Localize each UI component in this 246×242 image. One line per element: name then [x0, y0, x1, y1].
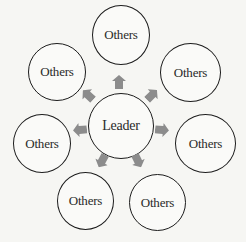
others-label: Others: [40, 64, 73, 80]
others-node-left: Others: [13, 114, 71, 173]
others-node-bottom-right: Others: [129, 174, 186, 231]
others-node-top-left: Others: [28, 43, 86, 101]
leader-label: Leader: [102, 118, 140, 134]
others-node-bottom-left: Others: [57, 172, 114, 230]
others-label: Others: [69, 193, 102, 209]
others-label: Others: [141, 195, 174, 211]
others-label: Others: [189, 136, 222, 152]
others-label: Others: [104, 27, 137, 43]
others-label: Others: [174, 65, 207, 81]
arrow-up-icon: [112, 75, 126, 89]
others-label: Others: [25, 136, 58, 152]
arrow-right-icon: [154, 122, 169, 137]
arrow-up-right-icon: [142, 85, 162, 105]
others-node-right: Others: [175, 114, 236, 173]
others-node-top: Others: [92, 5, 150, 65]
arrow-left-icon: [72, 122, 87, 137]
leader-node: Leader: [88, 93, 154, 159]
leader-others-diagram: Leader Others Others Others Others Other…: [0, 0, 246, 242]
others-node-top-right: Others: [160, 43, 221, 102]
